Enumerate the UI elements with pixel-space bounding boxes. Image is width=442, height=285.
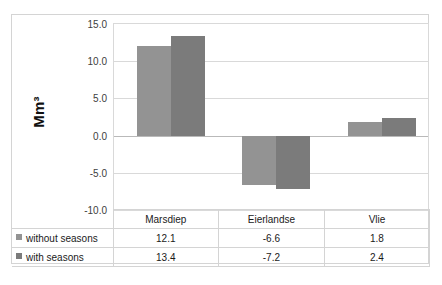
table-value-cell: 2.4 xyxy=(324,248,430,267)
bar xyxy=(348,122,382,135)
table-value-cell: 12.1 xyxy=(113,229,219,248)
bar xyxy=(276,136,310,190)
y-axis-tick-label: -5.0 xyxy=(47,167,107,178)
y-axis-tick-label: 10.0 xyxy=(47,56,107,67)
table-row: without seasons12.1-6.61.8 xyxy=(12,229,430,248)
legend-label: without seasons xyxy=(26,233,98,244)
legend-label: with seasons xyxy=(26,252,84,263)
chart-container: Mm³ 15.010.05.00.0-5.0-10.0 MarsdiepEier… xyxy=(11,14,429,264)
bar xyxy=(242,136,276,185)
bar-group xyxy=(114,24,219,209)
table-header-cell: Eierlandse xyxy=(219,210,325,229)
legend-swatch-icon xyxy=(16,234,22,240)
data-table: MarsdiepEierlandseVliewithout seasons12.… xyxy=(12,209,430,267)
bar xyxy=(137,46,171,136)
plot-wrapper: Mm³ 15.010.05.00.0-5.0-10.0 xyxy=(12,15,430,209)
legend-entry: without seasons xyxy=(12,229,113,248)
table-value-cell: -7.2 xyxy=(219,248,325,267)
table-header-cell: Marsdiep xyxy=(113,210,219,229)
y-axis-tick-label: 15.0 xyxy=(47,19,107,30)
table-header-row: MarsdiepEierlandseVlie xyxy=(12,210,430,229)
table-value-cell: -6.6 xyxy=(219,229,325,248)
bar-group xyxy=(325,24,430,209)
table-value-cell: 1.8 xyxy=(324,229,430,248)
plot-area xyxy=(113,23,429,209)
bar xyxy=(382,118,416,136)
bar-group xyxy=(219,24,324,209)
table-header-cell: Vlie xyxy=(324,210,430,229)
table-row: with seasons13.4-7.22.4 xyxy=(12,248,430,267)
legend-entry: with seasons xyxy=(12,248,113,267)
y-axis-tick-label: 5.0 xyxy=(47,93,107,104)
y-axis-title: Mm³ xyxy=(30,96,47,127)
y-axis-tick-label: 0.0 xyxy=(47,130,107,141)
bar xyxy=(171,36,205,136)
table-corner-cell xyxy=(12,210,113,229)
legend-swatch-icon xyxy=(16,253,22,259)
table-value-cell: 13.4 xyxy=(113,248,219,267)
